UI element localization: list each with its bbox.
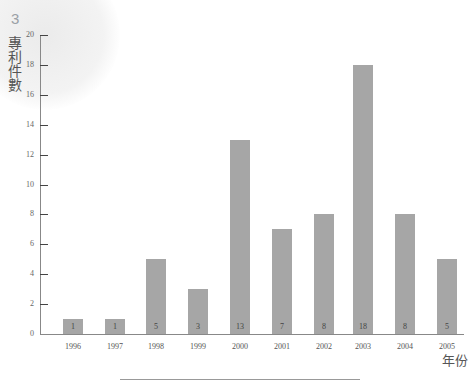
y-tick-label: 14 (14, 120, 34, 129)
y-tick-label: 2 (14, 299, 34, 308)
bar-value-label: 18 (353, 322, 373, 331)
x-axis-label: 年份 (442, 350, 468, 369)
bar-value-label: 5 (146, 322, 166, 331)
x-tick-label: 1997 (95, 342, 135, 351)
bar-value-label: 1 (105, 322, 125, 331)
y-tick-label: 6 (14, 239, 34, 248)
x-axis-line (40, 334, 464, 335)
chapter-number: 3 (11, 10, 19, 27)
x-tick-label: 2002 (304, 342, 344, 351)
y-tick-label: 12 (14, 150, 34, 159)
x-tick-label: 2001 (262, 342, 302, 351)
bar-2000 (230, 140, 250, 334)
y-tick-label: 0 (14, 329, 34, 338)
bar-value-label: 3 (188, 322, 208, 331)
x-tick-label: 2004 (385, 342, 425, 351)
x-tick-label: 1996 (53, 342, 93, 351)
y-tick (40, 214, 48, 215)
bar-value-label: 8 (314, 322, 334, 331)
y-tick (40, 304, 48, 305)
y-tick (40, 35, 48, 36)
y-tick-label: 16 (14, 90, 34, 99)
bar-2001 (272, 229, 292, 334)
bar-value-label: 13 (230, 322, 250, 331)
y-tick (40, 185, 48, 186)
y-tick (40, 125, 48, 126)
y-tick (40, 274, 48, 275)
y-tick (40, 65, 48, 66)
y-tick-label: 10 (14, 180, 34, 189)
y-tick-label: 4 (14, 269, 34, 278)
y-tick-label: 18 (14, 60, 34, 69)
y-tick-label: 8 (14, 209, 34, 218)
x-tick-label: 2000 (220, 342, 260, 351)
x-tick-label: 2003 (343, 342, 383, 351)
bar-value-label: 7 (272, 322, 292, 331)
footer-rule (120, 379, 360, 380)
bar-value-label: 5 (437, 322, 457, 331)
y-tick (40, 244, 48, 245)
bar-value-label: 8 (395, 322, 415, 331)
y-tick (40, 95, 48, 96)
bar-value-label: 1 (63, 322, 83, 331)
x-tick-label: 1998 (136, 342, 176, 351)
bar-2002 (314, 214, 334, 334)
y-tick (40, 155, 48, 156)
bar-2004 (395, 214, 415, 334)
bar-2003 (353, 65, 373, 334)
y-tick-label: 20 (14, 30, 34, 39)
x-tick-label: 1999 (178, 342, 218, 351)
